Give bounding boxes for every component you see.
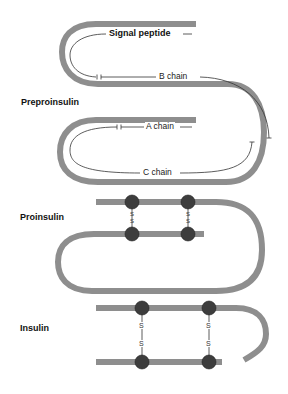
proinsulin-disulfide-lines bbox=[132, 202, 188, 234]
preproinsulin-label: Preproinsulin bbox=[21, 98, 79, 107]
signal-peptide-label: Signal peptide bbox=[108, 29, 172, 38]
proinsulin-sulfur-1a: S bbox=[130, 211, 134, 217]
insulin-sulfur-1b: S bbox=[139, 340, 144, 347]
insulin-processing-diagram: Preproinsulin Signal peptide B chain A c… bbox=[0, 0, 288, 394]
b-chain-label: B chain bbox=[158, 72, 188, 81]
insulin-cysteine-residues bbox=[135, 301, 216, 369]
insulin-sulfur-1a: S bbox=[139, 322, 144, 329]
proinsulin-sulfur-2a: S bbox=[186, 211, 190, 217]
a-chain-label: A chain bbox=[145, 122, 175, 131]
insulin-disulfide-lines bbox=[142, 308, 209, 362]
proinsulin-sulfur-2b: S bbox=[186, 218, 190, 224]
proinsulin-sulfur-1b: S bbox=[130, 218, 134, 224]
insulin-chains bbox=[96, 308, 266, 362]
proinsulin-chain bbox=[58, 202, 262, 291]
diagram-graphics bbox=[0, 0, 288, 394]
proinsulin-label: Proinsulin bbox=[20, 213, 64, 222]
preproinsulin-chain bbox=[60, 24, 264, 182]
insulin-sulfur-2b: S bbox=[206, 340, 211, 347]
c-chain-label: C chain bbox=[142, 168, 173, 177]
insulin-sulfur-2a: S bbox=[206, 322, 211, 329]
insulin-label: Insulin bbox=[20, 324, 49, 333]
